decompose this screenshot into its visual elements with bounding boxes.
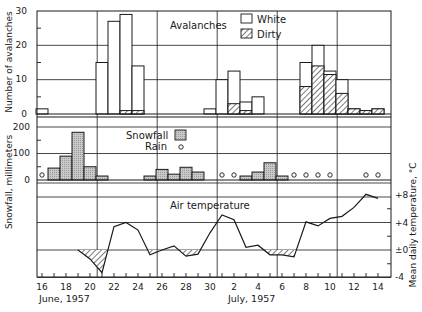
avalanche-bar-dirty <box>348 109 360 114</box>
x-tick-label: 4 <box>255 282 261 292</box>
legend-rain-label: Rain <box>145 141 167 152</box>
temp-ytick-plus8: +8 <box>395 190 409 200</box>
month-label-june: June, 1957 <box>38 293 90 304</box>
snowfall-ytick-0: 0 <box>24 175 30 185</box>
x-tick-label: 22 <box>108 282 119 292</box>
month-label-july: July, 1957 <box>227 293 275 304</box>
x-tick-label: 18 <box>60 282 72 292</box>
avalanche-bar-white <box>108 21 120 114</box>
x-tick-label: 2 <box>231 282 237 292</box>
snowfall-bar <box>252 172 264 180</box>
avalanche-bar-dirty <box>240 111 252 114</box>
x-axis-tick-labels: 16 18 20 22 24 26 28 30 2 4 6 8 10 12 14 <box>36 282 384 292</box>
legend-white-swatch <box>241 14 252 23</box>
rain-marker <box>220 173 224 177</box>
axis-ticks <box>37 28 391 277</box>
avalanche-bar-white <box>96 63 108 115</box>
legend-snowfall-swatch <box>175 130 186 140</box>
snowfall-bar <box>168 174 180 180</box>
x-tick-label: 20 <box>84 282 96 292</box>
snowfall-ytick-200: 200 <box>13 122 30 132</box>
avalanche-bar-white <box>204 109 216 114</box>
x-tick-label: 12 <box>348 282 359 292</box>
avalanche-bar-dirty <box>120 111 132 114</box>
avalanche-ytick-10: 10 <box>16 74 28 84</box>
rain-marker <box>376 173 380 177</box>
x-tick-label: 14 <box>372 282 384 292</box>
snowfall-bar <box>144 176 156 180</box>
snowfall-bar <box>156 169 168 180</box>
avalanche-snow-temperature-chart: 30 20 10 0 Number of avalanches 200 100 … <box>0 0 422 312</box>
x-tick-label: 30 <box>204 282 216 292</box>
snowfall-bar <box>72 132 84 180</box>
x-tick-label: 16 <box>36 282 48 292</box>
avalanche-ytick-30: 30 <box>16 6 28 16</box>
avalanche-bar-dirty <box>300 87 312 114</box>
rain-marker <box>328 173 332 177</box>
avalanche-bar-dirty <box>132 111 144 114</box>
legend-dirty-label: Dirty <box>257 29 282 40</box>
snowfall-bar <box>180 167 192 180</box>
below-zero-shading <box>78 250 296 273</box>
x-tick-label: 24 <box>132 282 144 292</box>
avalanche-bar-dirty <box>360 111 372 114</box>
snowfall-y-axis-label: Snowfall, millimeters <box>4 135 14 230</box>
avalanche-bar-dirty <box>372 109 384 114</box>
legend-snowfall-label: Snowfall <box>126 130 168 141</box>
snowfall-ytick-100: 100 <box>13 148 30 158</box>
snowfall-bar <box>192 172 204 180</box>
rain-marker <box>364 173 368 177</box>
avalanche-y-axis-label: Number of avalanches <box>4 11 14 113</box>
grid-lines <box>37 11 391 278</box>
avalanche-bar-white <box>132 66 144 114</box>
x-tick-label: 10 <box>324 282 336 292</box>
below-zero-hatch <box>270 250 282 255</box>
temp-ytick-zero: ±0 <box>395 245 409 255</box>
x-tick-label: 28 <box>180 282 192 292</box>
x-tick-label: 6 <box>279 282 285 292</box>
snowfall-bar <box>96 176 108 180</box>
avalanche-bar-white <box>120 14 132 114</box>
legend-rain-marker <box>179 145 183 149</box>
rain-marker <box>40 173 44 177</box>
avalanche-bar-dirty <box>228 104 240 114</box>
snowfall-bar <box>264 163 276 180</box>
rain-marker <box>304 173 308 177</box>
avalanche-bar-dirty <box>312 66 324 114</box>
air-temperature-title: Air temperature <box>170 200 250 211</box>
legend-dirty-swatch <box>241 29 252 38</box>
avalanche-ytick-0: 0 <box>21 109 27 119</box>
snowfall-bar <box>60 156 72 180</box>
avalanches-title: Avalanches <box>170 20 227 31</box>
avalanche-bar-dirty <box>324 75 336 114</box>
temp-ytick-minus4: -4 <box>395 272 404 282</box>
snowfall-bar <box>84 167 96 180</box>
avalanche-bar-white <box>252 97 264 114</box>
temp-ytick-plus4: +4 <box>395 218 409 228</box>
temp-y-axis-label: Mean daily temperature, °C <box>408 163 418 288</box>
x-tick-label: 8 <box>303 282 309 292</box>
snowfall-bar <box>48 168 60 180</box>
avalanche-bar-white <box>216 80 228 114</box>
plot-frame <box>37 11 391 277</box>
avalanche-bar-white <box>36 109 48 114</box>
rain-marker <box>316 173 320 177</box>
avalanche-bar-dirty <box>336 93 348 114</box>
snowfall-bar <box>240 176 252 180</box>
rain-marker <box>232 173 236 177</box>
legend-white-label: White <box>257 14 286 25</box>
avalanche-ytick-20: 20 <box>16 40 28 50</box>
x-tick-label: 26 <box>156 282 168 292</box>
snowfall-bar <box>276 176 288 180</box>
rain-marker <box>292 173 296 177</box>
